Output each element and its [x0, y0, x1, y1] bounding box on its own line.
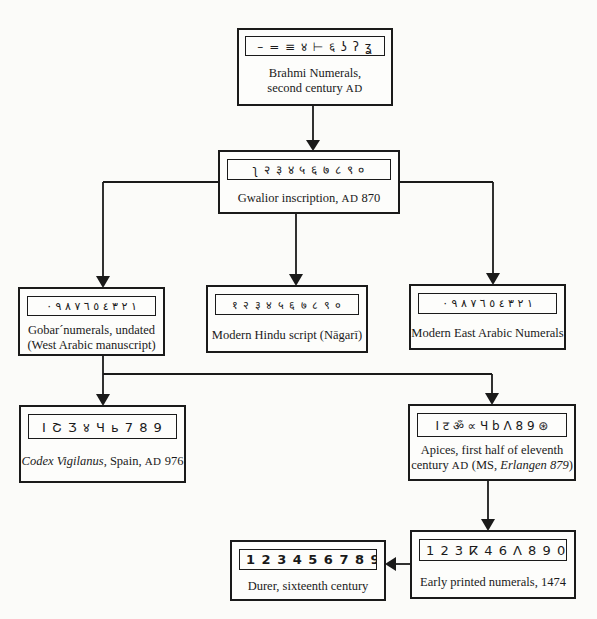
node-nagari: १ २ ३ ४ ५ ६ ७ ८ ९ ० Modern Hindu script …	[206, 285, 368, 353]
node-gwalior: ʅ २ ३ ४ ५ ६ ७ ८ ९ ० Gwalior inscription,…	[218, 150, 400, 214]
arrow-left-icon	[385, 557, 396, 571]
node-gobar: ١ ٢ ٣ ٤ ٥ ٦ ٧ ٨ ٩ ٠ Gobar´numerals, unda…	[18, 287, 165, 356]
caption-nagari: Modern Hindu script (Nāgarī)	[208, 328, 366, 343]
numeral-strip-durer: 1 2 3 4 5 6 7 8 9 0	[239, 549, 377, 570]
numeral-strip-codex: I Շ Ʒ ४ Ч ь 7 8 9	[28, 414, 177, 439]
numeral-strip-early-printed: 1 2 3 ⴽ 4 6 Λ 8 9 0	[419, 539, 567, 561]
numeral-strip-east-arabic: ١ ٢ ٣ ٤ ٥ ٦ ٧ ٨ ٩ ٠	[418, 293, 557, 314]
numeral-strip-gwalior: ʅ २ ३ ४ ५ ६ ७ ८ ९ ०	[227, 159, 391, 180]
node-early-printed: 1 2 3 ⴽ 4 6 Λ 8 9 0 Early printed numera…	[410, 530, 576, 599]
node-codex: I Շ Ʒ ४ Ч ь 7 8 9 Codex Vigilanus, Spain…	[19, 405, 186, 483]
node-east-arabic: ١ ٢ ٣ ٤ ٥ ٦ ٧ ٨ ٩ ٠ Modern East Arabic N…	[409, 284, 566, 350]
caption-gwalior: Gwalior inscription, AD 870	[220, 191, 398, 206]
caption-durer: Durer, sixteenth century	[232, 579, 384, 594]
node-apices: I ट ॐ ∝ Ч b Λ 8 9 ⊛ Apices, first half o…	[408, 404, 576, 481]
caption-east-arabic: Modern East Arabic Numerals	[411, 326, 564, 341]
caption-gobar: Gobar´numerals, undated (West Arabic man…	[20, 323, 163, 353]
numeral-strip-brahmi: – = ≡ ४ ⊢ ६ ʖ ʔ ʓ	[245, 36, 385, 56]
caption-early-printed: Early printed numerals, 1474	[412, 575, 574, 590]
numeral-strip-apices: I ट ॐ ∝ Ч b Λ 8 9 ⊛	[417, 413, 567, 437]
numeral-strip-nagari: १ २ ३ ४ ५ ६ ७ ८ ९ ०	[215, 294, 359, 315]
node-durer: 1 2 3 4 5 6 7 8 9 0 Durer, sixteenth cen…	[230, 540, 386, 601]
node-brahmi: – = ≡ ४ ⊢ ६ ʖ ʔ ʓ Brahmi Numerals, secon…	[237, 28, 393, 106]
numeral-strip-gobar: ١ ٢ ٣ ٤ ٥ ٦ ٧ ٨ ٩ ٠	[27, 296, 156, 316]
caption-brahmi: Brahmi Numerals, second century AD	[239, 66, 391, 96]
caption-codex: Codex Vigilanus, Spain, AD 976	[21, 454, 184, 469]
caption-apices: Apices, first half of eleventh century A…	[410, 443, 574, 473]
